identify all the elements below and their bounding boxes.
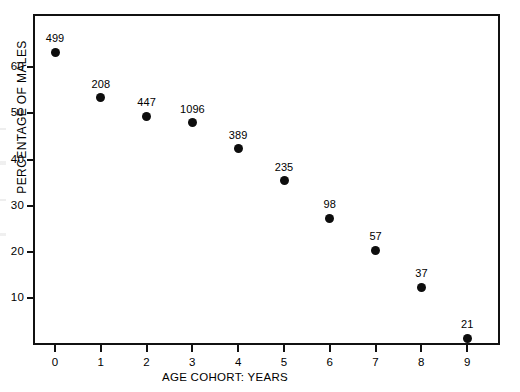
x-tick-label: 6 bbox=[318, 356, 342, 368]
x-tick-label: 4 bbox=[226, 356, 250, 368]
x-tick-mark bbox=[466, 345, 468, 352]
data-point-marker bbox=[463, 334, 472, 343]
x-tick-label: 8 bbox=[409, 356, 433, 368]
data-point-label: 1096 bbox=[180, 104, 205, 115]
data-point-label: 98 bbox=[324, 199, 336, 210]
x-tick-label: 7 bbox=[364, 356, 388, 368]
data-point-label: 57 bbox=[369, 231, 381, 242]
x-axis-title-text: AGE COHORT: YEARS bbox=[162, 371, 288, 383]
data-point-label: 235 bbox=[275, 162, 294, 173]
x-tick-mark bbox=[283, 345, 285, 352]
data-point-label: 21 bbox=[461, 319, 473, 330]
data-point-marker bbox=[325, 214, 334, 223]
x-tick-mark bbox=[54, 345, 56, 352]
x-tick-mark bbox=[100, 345, 102, 352]
x-tick-label: 1 bbox=[89, 356, 113, 368]
data-point-marker bbox=[142, 112, 151, 121]
y-tick-mark bbox=[27, 297, 34, 299]
data-point-label: 499 bbox=[46, 33, 65, 44]
y-tick-mark bbox=[27, 251, 34, 253]
data-point-marker bbox=[280, 176, 289, 185]
data-point-label: 447 bbox=[137, 97, 156, 108]
x-axis-title: AGE COHORT: YEARS bbox=[0, 371, 520, 383]
scan-artifact-edge bbox=[0, 90, 6, 300]
x-tick-label: 3 bbox=[180, 356, 204, 368]
y-axis-title: PERCENTAGE OF MALES bbox=[15, 7, 29, 227]
x-tick-label: 9 bbox=[455, 356, 479, 368]
x-tick-mark bbox=[375, 345, 377, 352]
x-tick-label: 0 bbox=[43, 356, 67, 368]
x-tick-mark bbox=[329, 345, 331, 352]
scatter-chart: 102030405060 0123456789 4992084471096389… bbox=[0, 0, 520, 392]
x-tick-label: 2 bbox=[135, 356, 159, 368]
data-point-label: 37 bbox=[415, 268, 427, 279]
data-point-marker bbox=[371, 246, 380, 255]
y-tick-label: 10 bbox=[0, 292, 24, 304]
data-point-label: 389 bbox=[229, 130, 248, 141]
x-tick-mark bbox=[420, 345, 422, 352]
data-point-marker bbox=[51, 48, 60, 57]
x-tick-label: 5 bbox=[272, 356, 296, 368]
x-tick-mark bbox=[146, 345, 148, 352]
data-point-label: 208 bbox=[91, 79, 110, 90]
x-tick-mark bbox=[237, 345, 239, 352]
plot-frame bbox=[33, 14, 500, 345]
y-tick-label: 20 bbox=[0, 246, 24, 258]
data-point-marker bbox=[417, 283, 426, 292]
data-point-marker bbox=[234, 144, 243, 153]
x-tick-mark bbox=[191, 345, 193, 352]
